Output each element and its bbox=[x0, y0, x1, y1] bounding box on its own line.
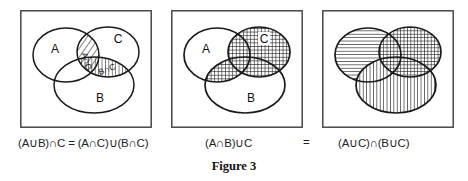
venn-panel-2: A B C bbox=[171, 10, 303, 128]
set-label-b: B bbox=[96, 91, 104, 105]
venn-figure: A B C A∩C B∩C bbox=[0, 0, 468, 181]
set-label-c: C bbox=[114, 32, 123, 46]
panel-3-caption: (A∪C)∩(B∪C) bbox=[338, 136, 409, 150]
set-label-a: A bbox=[202, 42, 210, 56]
panel-1-caption: (A∪B)∩C = (A∩C)∪(B∩C) bbox=[18, 136, 148, 150]
venn-panel-3 bbox=[322, 10, 454, 128]
set-label-b: B bbox=[247, 91, 255, 105]
venn-panel-1: A B C A∩C B∩C bbox=[20, 10, 152, 128]
figure-label: Figure 3 bbox=[0, 159, 468, 174]
panel-2-caption: (A∩B)∪C bbox=[205, 136, 252, 150]
equals-sign: = bbox=[303, 136, 310, 148]
set-label-c: C bbox=[260, 32, 269, 46]
set-label-a: A bbox=[51, 42, 59, 56]
